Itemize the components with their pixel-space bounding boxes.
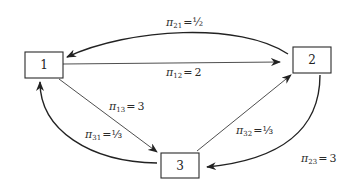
edge-1-to-2 (63, 62, 280, 64)
node-2-label: 2 (308, 53, 316, 67)
edge-2-to-1 (67, 33, 288, 57)
node-2: 2 (293, 47, 331, 73)
edge-3-to-2 (197, 75, 291, 151)
node-1: 1 (25, 52, 63, 78)
node-1-label: 1 (40, 58, 48, 72)
label-pi13: π13=3 (108, 100, 144, 114)
transition-diagram: 1 2 3 π21=½ π12=2 π13=3 π31=⅓ π32=⅓ π23=… (0, 0, 356, 194)
label-pi31: π31=⅓ (84, 128, 122, 142)
label-pi21: π21=½ (165, 16, 203, 30)
edge-3-to-1 (40, 82, 157, 163)
node-3: 3 (161, 153, 199, 178)
label-pi12: π12=2 (165, 66, 201, 80)
label-pi23: π23=3 (300, 152, 336, 166)
node-3-label: 3 (176, 159, 184, 173)
label-pi32: π32=⅓ (235, 124, 273, 138)
